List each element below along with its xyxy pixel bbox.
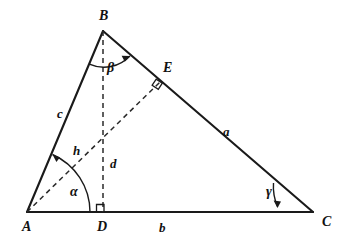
side-a-segment [103,31,313,212]
side-label-c: c [57,106,63,121]
vertex-label-B: B [98,8,108,23]
vertex-label-D: D [96,219,107,234]
side-label-b: b [159,220,166,235]
triangle-diagram: A B C D E a b c h d α β γ [0,0,346,241]
segment-h-perpendicular [27,82,160,212]
segment-label-d: d [110,156,117,171]
side-c-segment [27,31,103,212]
vertex-label-E: E [162,60,172,75]
geometry-figure: A B C D E a b c h d α β γ [0,0,346,241]
angle-label-gamma: γ [266,184,272,199]
segment-label-h: h [73,143,80,158]
angle-gamma-arrowhead [274,201,281,208]
vertex-label-A: A [21,219,31,234]
angle-label-beta: β [106,60,115,75]
vertex-label-C: C [322,214,332,229]
angle-beta-arrowhead [122,56,130,62]
angle-label-alpha: α [70,184,78,199]
side-label-a: a [223,124,230,139]
